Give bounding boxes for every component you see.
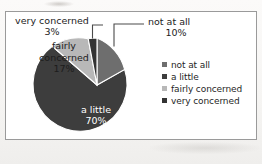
square-marker-icon — [162, 86, 167, 91]
legend-item-a-little[interactable]: a little — [162, 71, 254, 83]
scan-artifact-top — [44, 1, 74, 7]
data-label-a-little-value: 70% — [64, 115, 128, 126]
data-label-very-concerned-value: 3% — [4, 26, 100, 37]
square-marker-icon — [162, 98, 167, 103]
legend-item-not-at-all[interactable]: not at all — [162, 59, 254, 71]
data-label-fairly-concerned-name2: concerned — [36, 52, 92, 64]
legend-label-fairly-concerned: fairly concerned — [171, 84, 242, 94]
data-label-fairly-concerned: fairly concerned 17% — [36, 40, 92, 75]
data-label-not-at-all: not at all 10% — [148, 16, 224, 38]
data-label-a-little-name: a little — [64, 104, 128, 115]
legend-label-not-at-all: not at all — [171, 60, 210, 70]
legend-item-very-concerned[interactable]: very concerned — [162, 95, 254, 107]
data-label-very-concerned: very concerned 3% — [4, 15, 100, 37]
data-label-not-at-all-name: not at all — [148, 16, 224, 27]
legend-item-fairly-concerned[interactable]: fairly concerned — [162, 83, 254, 95]
data-label-fairly-concerned-name1: fairly — [36, 40, 92, 52]
data-label-a-little: a little 70% — [64, 104, 128, 126]
legend-label-very-concerned: very concerned — [171, 96, 240, 106]
page-background: very concerned 3% not at all 10% fairly … — [0, 0, 262, 164]
square-marker-icon — [162, 62, 167, 67]
square-marker-icon — [162, 74, 167, 79]
data-label-fairly-concerned-value: 17% — [36, 63, 92, 75]
data-label-very-concerned-name: very concerned — [4, 15, 100, 26]
legend-label-a-little: a little — [171, 72, 199, 82]
scan-artifact-bottom — [150, 142, 260, 154]
chart-legend: not at all a little fairly concerned ver… — [162, 59, 254, 107]
data-label-not-at-all-value: 10% — [148, 27, 204, 38]
leader-line-not-at-all — [114, 24, 144, 47]
